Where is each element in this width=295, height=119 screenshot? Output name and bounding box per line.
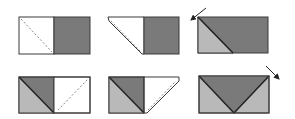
step-1 bbox=[19, 17, 90, 54]
step-2 bbox=[108, 17, 179, 54]
step-5 bbox=[109, 77, 179, 113]
step-6 bbox=[199, 66, 279, 113]
step-4 bbox=[19, 77, 90, 113]
step-3 bbox=[191, 8, 268, 53]
folding-diagram bbox=[0, 0, 295, 119]
